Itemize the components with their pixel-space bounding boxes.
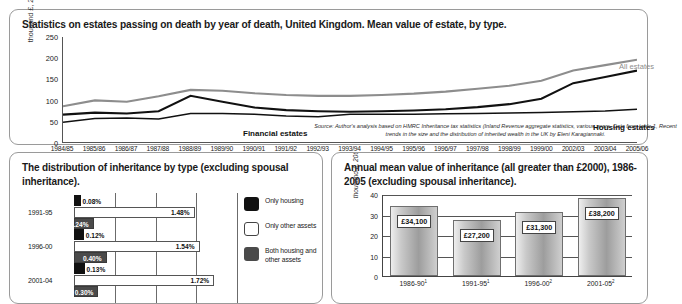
bar-value-label: 0.08%	[83, 197, 102, 204]
x-tick-label: 1985/86	[83, 145, 105, 152]
top-chart-plot-area: All estates Housing estates Financial es…	[62, 37, 637, 143]
y-tick-label: 30	[370, 212, 378, 219]
bar-value-label: £31,300	[522, 221, 556, 234]
x-tick-label: 1996-002	[525, 279, 552, 287]
legend-swatch	[244, 197, 259, 211]
x-tick-label: 1996/97	[434, 145, 456, 152]
x-tick-label: 1987/88	[147, 145, 169, 152]
y-tick-label: 200	[46, 54, 58, 63]
y-tick-label: 100	[46, 96, 58, 105]
x-tick-label: 1998/99	[498, 145, 520, 152]
bar-value-label: 1.48%	[171, 209, 190, 216]
bar-both-housing-and-other: 0.24%	[74, 218, 94, 229]
x-tick-label: 1991-951	[462, 279, 489, 287]
x-tick-label: 1989/90	[210, 145, 232, 152]
bar-only-housing: 0.12%	[74, 229, 84, 240]
x-tick-label: 2003/04	[594, 145, 616, 152]
distribution-chart: 0.08%1.48%0.24%0.12%1.54%0.40%0.13%1.72%…	[22, 193, 237, 303]
x-tick-label: 1986-901	[400, 279, 427, 287]
category-label: 2001-04	[28, 277, 52, 284]
x-tick-label: 1992/93	[306, 145, 328, 152]
annual-mean-y-ticks: 010203040	[358, 195, 378, 279]
y-tick-label: 250	[46, 33, 58, 42]
category-label: 1996-00	[28, 243, 52, 250]
bar-1996-00: £31,300	[515, 212, 563, 276]
x-tick-label: 1986/87	[115, 145, 137, 152]
bar-value-label: £38,200	[585, 207, 619, 220]
x-tick-label: 1999/00	[530, 145, 552, 152]
legend-label: Both housing and other assets	[265, 247, 323, 265]
annual-mean-chart-title: Annual mean value of inheritance (all gr…	[344, 161, 644, 188]
bar-only-housing: 0.08%	[74, 195, 81, 206]
top-chart-panel: Statistics on estates passing on death b…	[9, 9, 648, 145]
x-tick-label: 2001-052	[587, 279, 614, 287]
x-tick-label: 1984/85	[51, 145, 73, 152]
label-all-estates: All estates	[619, 62, 654, 71]
top-chart-title: Statistics on estates passing on death b…	[22, 19, 506, 30]
y-tick-label: 50	[50, 117, 58, 126]
x-tick-label: 1993/94	[338, 145, 360, 152]
mean-value-of-estate-chart: thousand £, 2005 prices 050100150200250 …	[20, 37, 640, 155]
annual-mean-plot-area: £34,100£27,200£31,300£38,200	[382, 195, 632, 277]
legend-swatch	[244, 222, 259, 236]
gridline	[237, 193, 238, 304]
y-tick-label: 150	[46, 75, 58, 84]
x-tick-label: 1990/91	[242, 145, 264, 152]
bar-value-label: £34,100	[397, 215, 431, 228]
distribution-panel: The distribution of inheritance by type …	[9, 152, 323, 304]
label-financial-estates: Financial estates	[243, 129, 307, 138]
distribution-chart-title: The distribution of inheritance by type …	[22, 161, 312, 188]
bar-only-other-assets: 1.54%	[74, 241, 200, 252]
gridline	[383, 195, 632, 196]
x-tick-label: 2005/06	[626, 145, 648, 152]
bar-only-other-assets: 1.48%	[74, 207, 195, 218]
legend-label: Only other assets	[265, 222, 323, 231]
legend-item-only-other-assets: Only other assets	[244, 222, 323, 247]
category-label: 1991-95	[28, 209, 52, 216]
y-tick-label: 0	[374, 274, 378, 281]
bar-1991-95: £27,200	[453, 220, 501, 276]
y-tick-label: 10	[370, 253, 378, 260]
bar-2001-05: £38,200	[578, 198, 626, 276]
bar-value-label: 0.24%	[70, 220, 89, 227]
x-tick-label: 1995/96	[402, 145, 424, 152]
line-all-estates	[63, 60, 637, 107]
bar-value-label: 0.13%	[87, 265, 106, 272]
x-tick-label: 2002/03	[562, 145, 584, 152]
source-note: Source: Author's analysis based on HMRC …	[308, 122, 682, 138]
x-tick-label: 1988/89	[179, 145, 201, 152]
y-tick-label: 20	[370, 233, 378, 240]
y-tick-label: 40	[370, 192, 378, 199]
legend-item-only-housing: Only housing	[244, 197, 323, 222]
bar-1986-90: £34,100	[390, 206, 438, 276]
x-tick-label: 1991/92	[274, 145, 296, 152]
distribution-legend: Only housingOnly other assetsBoth housin…	[244, 197, 323, 272]
x-tick-label: 1994/95	[370, 145, 392, 152]
legend-swatch	[244, 247, 259, 261]
bar-value-label: 0.30%	[75, 288, 94, 295]
legend-item-both-housing-and-other: Both housing and other assets	[244, 247, 323, 272]
annual-mean-x-ticks: 1986-9011991-9511996-0022001-052	[382, 279, 632, 291]
bar-only-housing: 0.13%	[74, 263, 85, 274]
bar-both-housing-and-other: 0.40%	[74, 252, 107, 263]
legend-label: Only housing	[265, 197, 323, 206]
bar-value-label: 1.54%	[176, 243, 195, 250]
bar-both-housing-and-other: 0.30%	[74, 286, 98, 297]
bar-value-label: 0.40%	[83, 254, 102, 261]
bar-value-label: 1.72%	[190, 277, 209, 284]
annual-mean-panel: Annual mean value of inheritance (all gr…	[331, 152, 648, 304]
annual-mean-chart: thousand £, 2005 prices 010203040 £34,10…	[346, 195, 638, 303]
bar-value-label: £27,200	[460, 229, 494, 242]
top-chart-y-ticks: 050100150200250	[34, 37, 58, 145]
bar-value-label: 0.12%	[86, 231, 105, 238]
x-tick-label: 1997/98	[466, 145, 488, 152]
bar-only-other-assets: 1.72%	[74, 275, 214, 286]
